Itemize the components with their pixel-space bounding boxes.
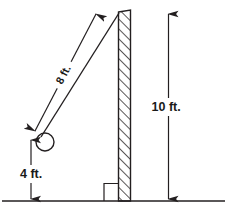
ladder-diagram-figure: 8 ft. 10 ft. 4 ft. — [0, 0, 227, 214]
wall-shape — [119, 10, 131, 201]
wall-height-label: 10 ft. — [152, 100, 181, 114]
roller-circle — [36, 133, 54, 151]
diagram-canvas: 8 ft. 10 ft. 4 ft. — [0, 0, 227, 214]
ladder-line — [41, 13, 119, 137]
right-angle-marker — [104, 184, 119, 202]
base-height-label: 4 ft. — [20, 167, 42, 181]
